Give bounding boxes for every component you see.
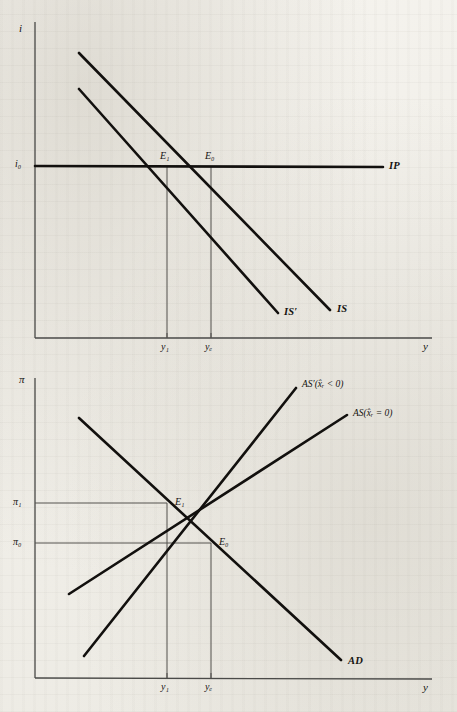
point-label-e1: E₁: [160, 150, 170, 161]
curve-as-prime: [84, 388, 296, 656]
ytick-label-i0: i₀: [15, 158, 21, 169]
curve-is-prime: [79, 89, 278, 313]
point-label-e0: E₀: [205, 150, 215, 161]
x-axis-line: [35, 678, 432, 679]
curve-ip: [35, 166, 383, 167]
xtick-label-ye: yₑ: [205, 341, 212, 352]
ytick-label-pi0: π₀: [13, 536, 22, 547]
x-axis-label: y: [423, 681, 428, 693]
ad-as-panel: π y π₁ π₀ y₁ yₑ E₁ E₀ AS′(x̂ᵣ < 0) AS(x̂…: [0, 360, 457, 712]
xtick-label-y1: y₁: [161, 341, 169, 352]
ytick-label-pi1: π₁: [13, 496, 22, 507]
point-label-e1: E₁: [175, 496, 185, 507]
curve-label-ip: IP: [389, 160, 400, 171]
xtick-label-y1: y₁: [161, 681, 169, 692]
curve-label-is-prime: IS′: [284, 306, 297, 317]
y-axis-label: i: [19, 22, 22, 34]
curve-label-is: IS: [337, 303, 347, 314]
curve-label-as-prime: AS′(x̂ᵣ < 0): [302, 379, 343, 389]
xtick-label-ye: yₑ: [205, 681, 212, 692]
curve-is: [79, 53, 330, 310]
curve-label-as: AS(x̂ᵣ = 0): [353, 408, 392, 418]
curve-ad: [79, 418, 341, 660]
x-axis-label: y: [423, 340, 428, 352]
curve-as: [69, 415, 347, 594]
curve-label-ad: AD: [348, 655, 363, 666]
y-axis-label: π: [19, 373, 25, 385]
point-label-e0: E₀: [219, 536, 229, 547]
is-ip-panel: i y i₀ y₁ yₑ E₁ E₀ IP IS′ IS: [0, 0, 457, 360]
is-ip-plot: [0, 0, 457, 360]
